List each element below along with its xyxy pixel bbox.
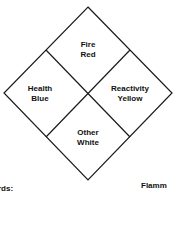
other-color: White (58, 138, 118, 148)
health-label: Health (10, 84, 70, 94)
footer-right-text: Flamm (141, 181, 167, 190)
fire-quadrant-label: Fire Red (58, 40, 118, 60)
fire-color: Red (58, 50, 118, 60)
other-quadrant-label: Other White (58, 128, 118, 148)
health-quadrant-label: Health Blue (10, 84, 70, 104)
footer-left-text: rds: (0, 184, 13, 193)
reactivity-label: Reactivity (100, 84, 160, 94)
reactivity-color: Yellow (100, 94, 160, 104)
health-color: Blue (10, 94, 70, 104)
other-label: Other (58, 128, 118, 138)
fire-label: Fire (58, 40, 118, 50)
reactivity-quadrant-label: Reactivity Yellow (100, 84, 160, 104)
